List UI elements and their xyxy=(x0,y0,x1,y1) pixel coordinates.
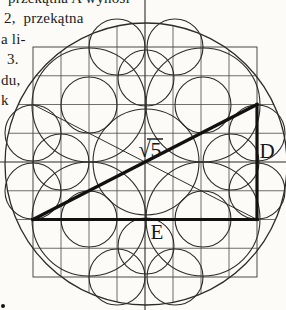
scan-speck xyxy=(1,304,5,308)
side-label-e: E xyxy=(151,220,164,244)
scan-marks xyxy=(1,304,5,308)
hypotenuse-label-sqrt5: √5 xyxy=(138,137,161,162)
side-label-d: D xyxy=(259,139,274,163)
geometric-construction-figure: √5 D E xyxy=(0,0,286,310)
scanned-page: przekątna A wynosi 2, przekątna a li- 3.… xyxy=(0,0,286,310)
